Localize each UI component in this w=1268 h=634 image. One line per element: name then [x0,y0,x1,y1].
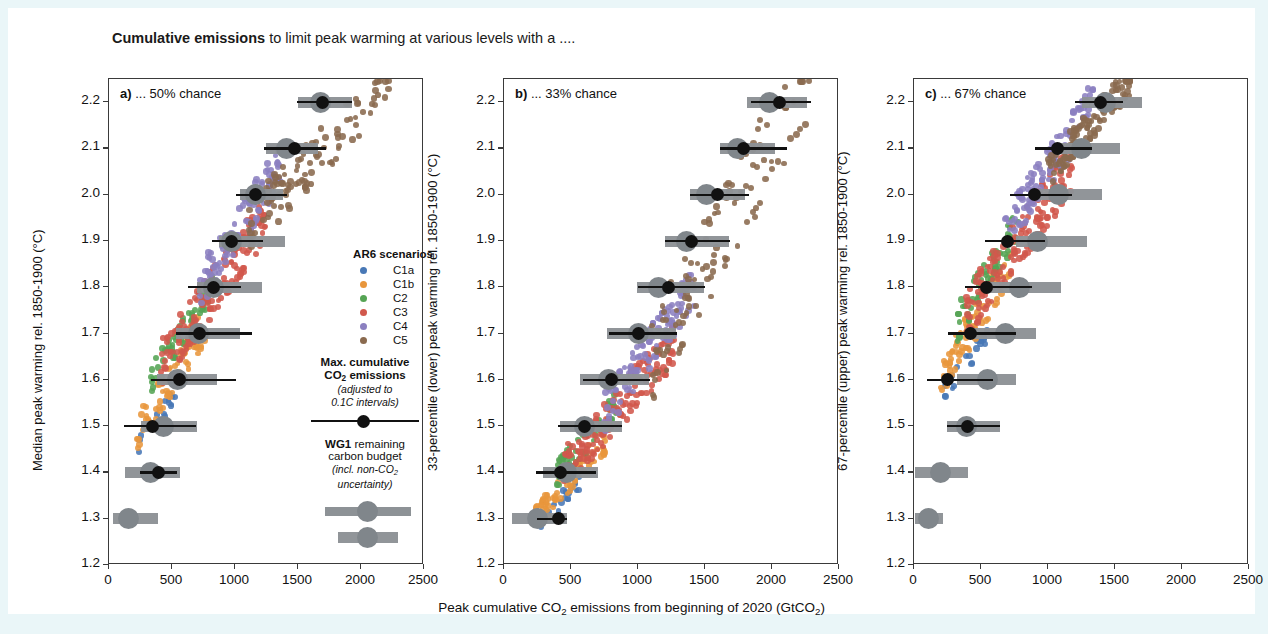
y-tick-label: 1.3 [449,509,495,524]
scatter-point-c1b [135,436,142,443]
scatter-point-c3 [1022,252,1028,258]
wg1-budget-marker [773,96,786,109]
y-tick-mark [103,147,108,148]
scatter-point-c5 [708,294,714,300]
y-tick-mark [103,471,108,472]
y-tick-mark [103,518,108,519]
x-tick-label: 2000 [330,572,390,587]
scatter-point-c5 [744,219,750,225]
scatter-point-c3 [633,403,639,409]
x-tick-mark [1248,564,1249,569]
y-tick-label: 1.4 [859,462,905,477]
panel-c: c) ... 67% chance1.21.31.41.51.61.71.81.… [913,78,1248,564]
x-tick-mark [980,564,981,569]
x-tick-mark [570,564,571,569]
scatter-point-c3 [216,298,222,304]
scatter-point-c4 [1039,170,1046,177]
scatter-point-c1b [160,405,166,411]
wg1-budget-marker [711,188,724,201]
plot-area-c [913,78,1248,564]
legend-label: C2 [393,292,435,304]
scatter-point-c3 [976,305,982,311]
scatter-point-c3 [627,403,633,409]
scatter-point-c5 [688,260,694,266]
y-tick-mark [908,147,913,148]
y-tick-mark [103,240,108,241]
wg1-budget-marker [961,420,974,433]
wg1-budget-marker [605,373,618,386]
x-tick-mark [503,564,504,569]
scatter-point-c5 [724,256,730,262]
scatter-point-c5 [660,351,667,358]
scatter-point-c5 [713,203,720,210]
scatter-point-c5 [307,160,313,166]
legend-maxcum-glyph [295,500,435,522]
x-tick-label: 1500 [674,572,734,587]
scatter-point-c5 [1051,170,1057,176]
scatter-point-c3 [593,412,599,418]
scatter-point-c3 [215,304,221,310]
legend-maxcum-line1: Max. cumulative [321,356,410,368]
y-tick-label: 1.8 [54,277,100,292]
y-tick-mark [908,425,913,426]
wg1-budget-marker [1001,235,1014,248]
y-tick-mark [498,286,503,287]
y-tick-label: 1.8 [859,277,905,292]
scatter-point-c3 [591,451,597,457]
wg1-budget-line [176,332,252,334]
figure-frame: Cumulative emissions to limit peak warmi… [8,8,1255,614]
scatter-point-c4 [197,293,203,299]
scatter-point-c2 [153,355,159,361]
y-tick-mark [103,101,108,102]
legend-wg1-bold: WG1 [325,438,351,450]
legend-wg1-note-sub: 2 [394,468,398,477]
legend-label: C4 [393,320,435,332]
panel-letter: c) [925,86,937,101]
panel-chance-text: ... 33% chance [527,86,617,101]
scatter-point-c5 [356,133,362,139]
scatter-point-c1b [165,391,172,398]
legend-item-c2: C2 [295,291,435,305]
panel-label-b: b) ... 33% chance [515,86,617,101]
legend-label: C3 [393,306,435,318]
legend-swatch-c4 [360,323,367,330]
scatter-point-c2 [170,342,176,348]
y-tick-label: 1.9 [449,231,495,246]
scatter-point-c5 [264,199,271,206]
x-tick-mark [1047,564,1048,569]
scatter-point-c5 [282,172,288,178]
y-tick-label: 2.1 [859,138,905,153]
scatter-point-c5 [308,169,315,176]
scatter-point-c3 [177,358,183,364]
scatter-point-c4 [232,221,238,227]
scatter-point-c4 [208,250,214,256]
scatter-point-c5 [676,350,682,356]
scatter-point-c5 [660,303,665,308]
legend-item-c4: C4 [295,319,435,333]
scatter-point-c3 [177,311,184,318]
x-tick-label: 0 [473,572,533,587]
scatter-point-c5 [652,377,658,383]
scatter-point-c5 [735,243,741,249]
band-dot-icon [357,501,378,522]
x-tick-mark [1114,564,1115,569]
scatter-point-c5 [360,109,365,114]
scatter-point-c1b [994,296,1000,302]
scatter-point-c4 [646,365,652,371]
scatter-point-c4 [1019,196,1026,203]
scatter-point-c5 [757,117,764,124]
scatter-point-c5 [278,204,284,210]
wg1-budget-marker [980,281,993,294]
scatter-point-c5 [769,166,775,172]
scatter-point-c5 [296,179,302,185]
x-tick-label: 1000 [1017,572,1077,587]
y-tick-mark [908,240,913,241]
x-tick-label: 1500 [267,572,327,587]
scatter-point-c2 [149,366,156,373]
legend-maxcum-note1: (adjusted to [338,383,393,395]
x-tick-mark [171,564,172,569]
y-tick-mark [908,286,913,287]
y-tick-mark [103,333,108,334]
legend-swatch-c1a [360,267,367,274]
wg1-budget-marker [207,281,220,294]
